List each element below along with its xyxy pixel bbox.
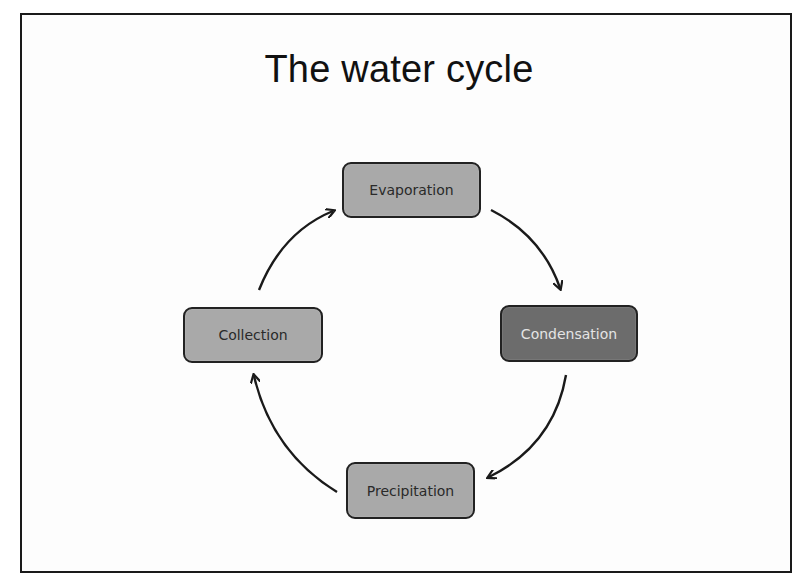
- arrow-evaporation-to-condensation: [491, 210, 560, 288]
- node-evaporation: Evaporation: [342, 162, 481, 218]
- node-condensation: Condensation: [500, 305, 638, 362]
- arrow-precipitation-to-collection: [254, 376, 337, 492]
- arrow-condensation-to-precipitation: [489, 375, 566, 477]
- arrow-collection-to-evaporation: [259, 211, 333, 290]
- node-precipitation: Precipitation: [346, 462, 475, 519]
- node-collection: Collection: [183, 307, 323, 363]
